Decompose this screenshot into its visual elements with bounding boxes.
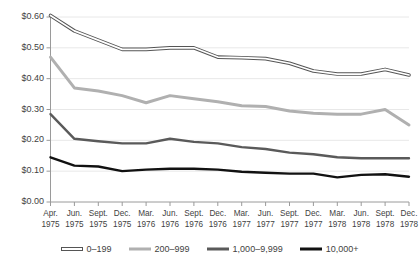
y-tick-marks — [47, 17, 51, 202]
legend-swatch-icon — [61, 246, 83, 253]
gridlines — [51, 17, 410, 171]
y-axis-tick-label: $0.00 — [2, 196, 44, 206]
series-line — [51, 15, 410, 75]
series-line — [51, 157, 410, 177]
series-line — [51, 57, 410, 125]
y-axis-tick-label: $0.10 — [2, 165, 44, 175]
series-line — [51, 114, 410, 158]
chart-legend: 0–199200–9991,000–9,99910,000+ — [0, 238, 419, 260]
legend-label: 10,000+ — [326, 244, 359, 254]
line-chart: $0.00$0.10$0.20$0.30$0.40$0.50$0.60 Apr.… — [0, 0, 419, 263]
series-lines — [51, 15, 410, 177]
legend-item[interactable]: 0–199 — [61, 244, 112, 254]
legend-swatch-icon — [207, 246, 229, 253]
y-axis-tick-label: $0.60 — [2, 11, 44, 21]
legend-label: 200–999 — [155, 244, 190, 254]
y-axis-tick-label: $0.20 — [2, 134, 44, 144]
legend-item[interactable]: 1,000–9,999 — [207, 244, 283, 254]
x-tick-marks — [51, 202, 410, 206]
series-line-outline — [51, 15, 410, 75]
y-axis-tick-label: $0.40 — [2, 73, 44, 83]
legend-item[interactable]: 10,000+ — [300, 244, 359, 254]
y-axis-tick-label: $0.30 — [2, 104, 44, 114]
y-axis-tick-label: $0.50 — [2, 42, 44, 52]
legend-swatch-icon — [129, 246, 151, 253]
x-axis-tick-label: Dec.1978 — [394, 209, 419, 230]
x-tick-month: Dec. — [394, 209, 419, 220]
legend-label: 1,000–9,999 — [233, 244, 283, 254]
x-tick-year: 1978 — [394, 220, 419, 231]
legend-label: 0–199 — [87, 244, 112, 254]
legend-swatch-icon — [300, 246, 322, 253]
legend-item[interactable]: 200–999 — [129, 244, 190, 254]
